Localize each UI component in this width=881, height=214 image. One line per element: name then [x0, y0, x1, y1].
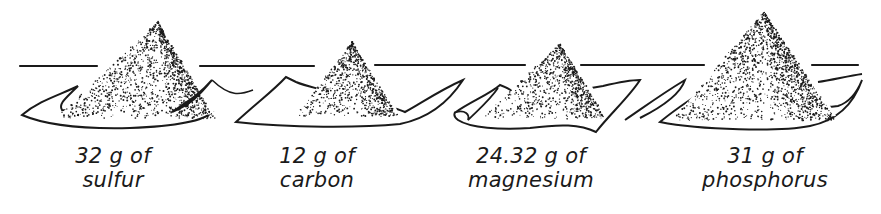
powder-dot — [581, 103, 583, 105]
powder-dot — [63, 116, 64, 117]
powder-dot — [153, 32, 154, 33]
powder-dot — [386, 110, 388, 112]
powder-dot — [582, 87, 584, 89]
powder-dot — [712, 81, 713, 82]
powder-dot — [130, 78, 131, 79]
powder-dot — [355, 53, 357, 55]
powder-dot — [129, 104, 131, 106]
powder-dot — [116, 85, 117, 86]
powder-dot — [788, 69, 789, 70]
powder-dot — [338, 106, 339, 107]
powder-dot — [183, 115, 185, 117]
label-carbon-element: carbon — [262, 168, 372, 192]
powder-dot — [782, 72, 784, 74]
powder-dot — [368, 96, 370, 98]
powder-dot — [590, 99, 591, 100]
powder-dot — [780, 77, 781, 78]
powder-dot — [164, 73, 166, 75]
powder-dot — [727, 77, 729, 79]
powder-dot — [694, 114, 695, 115]
powder-dot — [356, 111, 357, 112]
powder-dot — [123, 60, 124, 61]
powder-dot — [167, 113, 168, 114]
powder-dot — [343, 60, 344, 61]
powder-dot — [686, 105, 687, 106]
powder-dot — [174, 71, 176, 73]
powder-dot — [545, 72, 547, 74]
powder-dot — [699, 117, 701, 119]
powder-dot — [735, 118, 736, 119]
powder-dot — [310, 104, 312, 106]
powder-dot — [350, 61, 352, 63]
powder-dot — [86, 115, 88, 117]
powder-dot — [777, 46, 779, 48]
powder-dot — [765, 18, 766, 19]
powder-dot — [141, 89, 142, 90]
powder-dot — [755, 23, 757, 25]
powder-dot — [580, 104, 581, 105]
powder-dot — [772, 68, 773, 69]
powder-dot — [577, 96, 578, 97]
powder-dot — [764, 22, 765, 23]
powder-dot — [515, 100, 516, 101]
powder-dot — [703, 95, 704, 96]
powder-dot — [524, 98, 525, 99]
powder-dot — [697, 96, 698, 97]
powder-dot — [739, 54, 740, 55]
powder-dot — [563, 81, 565, 83]
powder-dot — [787, 54, 789, 56]
powder-dot — [169, 68, 170, 69]
powder-dot — [357, 59, 359, 61]
powder-dot — [730, 103, 731, 104]
powder-dot — [696, 117, 698, 119]
powder-dot — [545, 70, 546, 71]
powder-dot — [76, 102, 78, 104]
powder-dot — [369, 75, 370, 76]
powder-dot — [154, 108, 155, 109]
powder-dot — [169, 71, 170, 72]
powder-dot — [96, 112, 98, 114]
powder-dot — [732, 52, 734, 54]
powder-dot — [346, 58, 347, 59]
powder-dot — [735, 52, 737, 54]
powder-dot — [573, 87, 574, 88]
powder-dot — [326, 94, 327, 95]
powder-dot — [178, 79, 180, 81]
powder-dot — [495, 110, 497, 112]
powder-dot — [379, 103, 380, 104]
powder-dot — [570, 75, 571, 76]
powder-dot — [580, 82, 581, 83]
powder-dot — [803, 120, 805, 122]
powder-dot — [793, 67, 794, 68]
powder-dot — [160, 51, 161, 52]
powder-dot — [706, 98, 707, 99]
powder-dot — [117, 78, 118, 79]
powder-dot — [752, 55, 754, 57]
powder-dot — [144, 47, 146, 49]
powder-dot — [819, 114, 821, 116]
powder-dot — [734, 110, 736, 112]
powder-dot — [379, 110, 380, 111]
powder-dot — [345, 53, 346, 54]
powder-dot — [753, 47, 755, 49]
powder-dot — [367, 89, 368, 90]
powder-dot — [508, 110, 510, 112]
powder-dot — [729, 105, 731, 107]
powder-dot — [134, 105, 135, 106]
powder-dot — [158, 34, 160, 36]
powder-dot — [126, 81, 127, 82]
powder-dot — [344, 86, 345, 87]
powder-dot — [515, 90, 516, 91]
powder-dot — [759, 85, 761, 87]
powder-dot — [581, 97, 583, 99]
powder-dot — [150, 32, 152, 34]
powder-dot — [576, 73, 577, 74]
powder-dot — [557, 103, 558, 104]
powder-dot — [373, 77, 375, 79]
powder-dot — [107, 96, 108, 97]
powder-dot — [747, 77, 748, 78]
powder-dot — [779, 55, 781, 57]
powder-dot — [768, 27, 769, 28]
powder-dot — [378, 93, 379, 94]
powder-dot — [721, 118, 723, 120]
